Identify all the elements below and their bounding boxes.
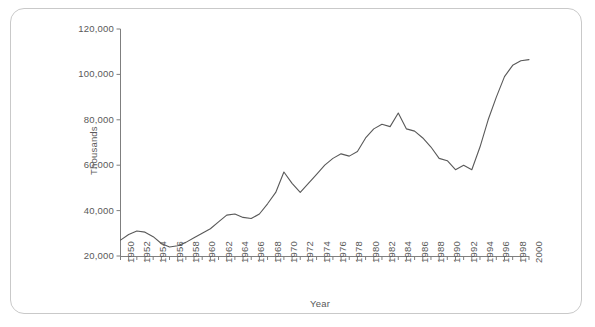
x-axis-tick-label: 1956 (174, 241, 185, 263)
x-axis-tick-label: 1990 (451, 241, 462, 263)
x-axis-tick-label: 1950 (125, 241, 136, 263)
x-axis-tick-label: 1958 (190, 241, 201, 263)
x-axis-tick-label: 1960 (206, 241, 217, 263)
y-axis-ticks (117, 29, 121, 256)
y-axis-tick-label: 60,000 (56, 159, 114, 170)
x-axis-tick-label: 1980 (370, 241, 381, 263)
x-axis-tick-label: 1974 (321, 241, 332, 263)
x-axis-tick-label: 1992 (468, 241, 479, 263)
x-axis-tick-label: 1968 (272, 241, 283, 263)
x-axis-tick-label: 1970 (288, 241, 299, 263)
y-axis-tick-label: 100,000 (56, 68, 114, 79)
x-axis-tick-label: 1972 (304, 241, 315, 263)
x-axis-tick-label: 1994 (484, 241, 495, 263)
x-axis-tick-label: 1984 (402, 241, 413, 263)
y-axis-tick-label: 80,000 (56, 114, 114, 125)
x-axis-tick-label: 1988 (435, 241, 446, 263)
axis-lines (121, 29, 530, 257)
x-axis-tick-label: 1964 (239, 241, 250, 263)
x-axis-tick-label: 1976 (337, 241, 348, 263)
x-axis-tick-label: 2000 (533, 241, 544, 263)
chart-container: Thousands Year 20,00040,00060,00080,0001… (0, 0, 595, 327)
y-axis-tick-label: 20,000 (56, 250, 114, 261)
x-axis-tick-label: 1978 (353, 241, 364, 263)
x-axis-tick-label: 1996 (500, 241, 511, 263)
x-axis-tick-label: 1982 (386, 241, 397, 263)
y-axis-tick-label: 40,000 (56, 205, 114, 216)
x-axis-tick-label: 1998 (517, 241, 528, 263)
x-axis-tick-label: 1952 (141, 241, 152, 263)
x-axis-tick-label: 1986 (419, 241, 430, 263)
x-axis-tick-label: 1954 (157, 241, 168, 263)
y-axis-tick-label: 120,000 (56, 23, 114, 34)
x-axis-tick-label: 1962 (223, 241, 234, 263)
data-series-line (121, 60, 530, 247)
x-axis-tick-label: 1966 (255, 241, 266, 263)
